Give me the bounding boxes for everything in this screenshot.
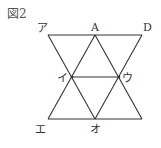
label-e: エ — [35, 124, 46, 135]
point-i — [71, 76, 74, 79]
label-D: D — [143, 22, 152, 33]
label-i: イ — [57, 73, 68, 84]
point-u — [118, 76, 121, 79]
geometry-diagram — [0, 0, 161, 148]
label-A: A — [91, 22, 99, 33]
label-o: オ — [90, 124, 101, 135]
label-a: ア — [37, 23, 48, 34]
label-u: ウ — [122, 73, 133, 84]
